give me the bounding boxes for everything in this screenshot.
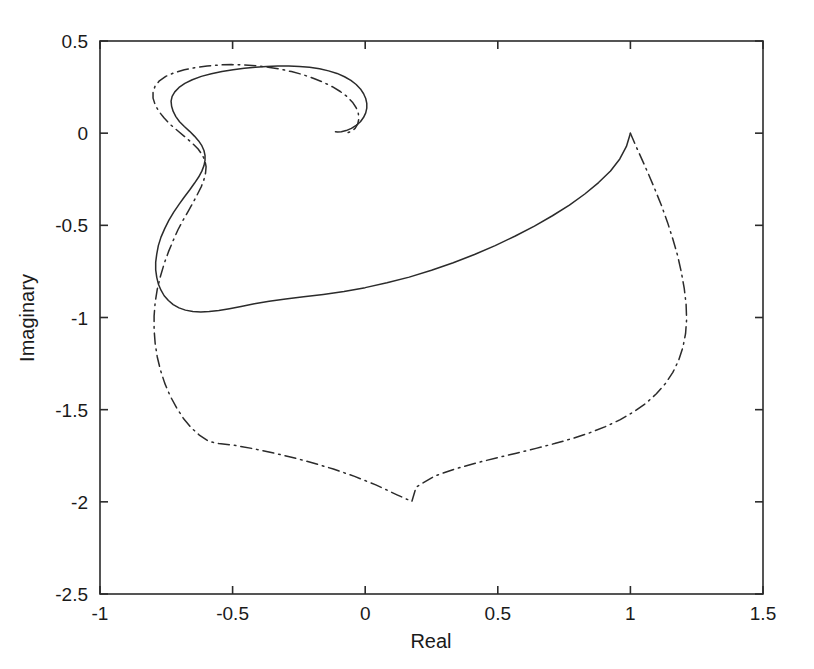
y-tick-label: -2 <box>71 492 88 513</box>
series-dashdot-trajectory <box>153 65 687 502</box>
plot-canvas: -1-0.500.511.5 0.50-0.5-1-1.5-2-2.5 Real… <box>0 0 814 669</box>
tick-marks <box>100 41 763 594</box>
y-tick-label: 0.5 <box>62 31 88 52</box>
y-tick-labels: 0.50-0.5-1-1.5-2-2.5 <box>55 31 88 605</box>
x-tick-label: 1.5 <box>750 603 776 624</box>
nyquist-plot-figure: -1-0.500.511.5 0.50-0.5-1-1.5-2-2.5 Real… <box>0 0 814 669</box>
x-tick-label: -0.5 <box>216 603 249 624</box>
x-tick-label: 0 <box>360 603 371 624</box>
x-tick-label: -1 <box>92 603 109 624</box>
y-tick-label: 0 <box>77 123 88 144</box>
y-axis-title: Imaginary <box>16 274 38 362</box>
data-series-group <box>153 65 687 502</box>
axes-frame <box>100 41 763 594</box>
y-tick-label: -1 <box>71 308 88 329</box>
y-tick-label: -2.5 <box>55 584 88 605</box>
x-tick-labels: -1-0.500.511.5 <box>92 603 777 624</box>
x-tick-label: 1 <box>625 603 636 624</box>
y-tick-label: -0.5 <box>55 215 88 236</box>
y-tick-label: -1.5 <box>55 400 88 421</box>
series-solid-trajectory <box>156 66 631 312</box>
x-axis-title: Real <box>410 630 451 652</box>
x-tick-label: 0.5 <box>485 603 511 624</box>
